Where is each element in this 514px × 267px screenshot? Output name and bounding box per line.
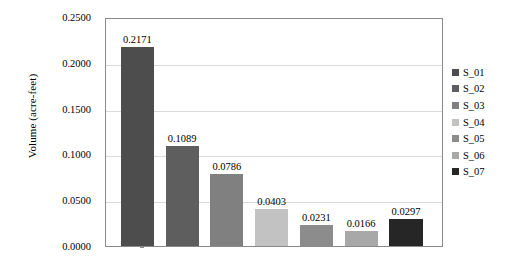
legend-label: S_03 (463, 100, 485, 111)
legend: S_01S_02S_03S_04S_05S_06S_07 (452, 64, 512, 180)
bar-group: 0.0403 (255, 19, 288, 246)
legend-label: S_07 (463, 166, 485, 177)
legend-swatch-icon (452, 85, 459, 92)
legend-item-s_06[interactable]: S_06 (452, 147, 512, 164)
bar-value-label: 0.0231 (302, 212, 331, 223)
bar-value-label: 0.0786 (212, 161, 241, 172)
bar-s_02 (166, 146, 199, 246)
bar-value-label: 0.0166 (347, 218, 376, 229)
legend-item-s_05[interactable]: S_05 (452, 130, 512, 147)
y-tick-mark (140, 247, 144, 248)
bar-value-label: 0.0403 (257, 196, 286, 207)
plot-area: 0.21710.10890.07860.04030.02310.01660.02… (105, 18, 443, 247)
bar-value-label: 0.1089 (168, 133, 197, 144)
legend-item-s_07[interactable]: S_07 (452, 164, 512, 181)
y-tick-label: 0.1000 (62, 150, 91, 160)
bar-s_01 (121, 47, 154, 246)
bar-s_05 (300, 225, 333, 246)
bar-group: 0.0297 (389, 19, 422, 246)
legend-swatch-icon (452, 168, 459, 175)
y-axis-tick-labels: 0.00000.05000.10000.15000.20000.2500 (40, 18, 97, 247)
bar-group: 0.0166 (345, 19, 378, 246)
y-tick-label: 0.2000 (62, 59, 91, 69)
legend-swatch-icon (452, 152, 459, 159)
legend-label: S_05 (463, 133, 485, 144)
legend-swatch-icon (452, 102, 459, 109)
legend-label: S_06 (463, 150, 485, 161)
bar-group: 0.0786 (210, 19, 243, 246)
legend-label: S_01 (463, 67, 485, 78)
legend-item-s_03[interactable]: S_03 (452, 97, 512, 114)
bar-s_07 (389, 219, 422, 246)
legend-swatch-icon (452, 135, 459, 142)
y-tick-label: 0.0000 (62, 242, 91, 252)
y-tick-label: 0.0500 (62, 196, 91, 206)
legend-label: S_02 (463, 83, 485, 94)
y-tick-label: 0.2500 (62, 13, 91, 23)
bar-group: 0.1089 (166, 19, 199, 246)
y-axis-title: Volume (acre-feet) (26, 26, 38, 206)
bar-group: 0.0231 (300, 19, 333, 246)
y-tick-label: 0.1500 (62, 105, 91, 115)
bar-group: 0.2171 (121, 19, 154, 246)
bar-s_06 (345, 231, 378, 246)
legend-item-s_02[interactable]: S_02 (452, 81, 512, 98)
bar-value-label: 0.2171 (123, 34, 152, 45)
bars-layer: 0.21710.10890.07860.04030.02310.01660.02… (106, 19, 442, 246)
legend-label: S_04 (463, 117, 485, 128)
bar-chart: Volume (acre-feet) 0.00000.05000.10000.1… (0, 0, 514, 267)
legend-item-s_01[interactable]: S_01 (452, 64, 512, 81)
bar-value-label: 0.0297 (392, 206, 421, 217)
legend-swatch-icon (452, 119, 459, 126)
legend-swatch-icon (452, 69, 459, 76)
bar-s_03 (210, 174, 243, 246)
bar-s_04 (255, 209, 288, 246)
legend-item-s_04[interactable]: S_04 (452, 114, 512, 131)
